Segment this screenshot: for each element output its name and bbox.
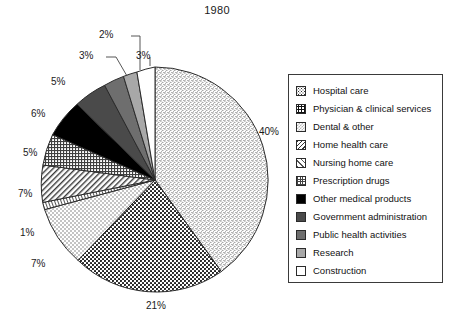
label-5-percent-rx: 5% — [23, 147, 37, 158]
legend-label: Hospital care — [313, 86, 368, 96]
pie-slices — [41, 67, 268, 292]
stipple-swatch-icon — [296, 86, 306, 96]
dense-dot-swatch-icon — [296, 104, 306, 114]
light-diagonal-swatch-icon — [296, 158, 306, 168]
legend-label: Government administration — [313, 212, 427, 222]
legend-item-government-administration[interactable]: Government administration — [289, 208, 442, 226]
label-2-percent: 2% — [99, 29, 113, 40]
legend-item-physician-clinical-services[interactable]: Physician & clinical services — [289, 100, 442, 118]
legend-label: Construction — [313, 266, 366, 276]
legend-label: Physician & clinical services — [313, 104, 431, 114]
white-swatch-icon — [296, 266, 306, 276]
legend-item-dental-other[interactable]: Dental & other — [289, 118, 442, 136]
label-5-percent-gov: 5% — [51, 76, 65, 87]
legend-item-construction[interactable]: Construction — [289, 262, 442, 280]
medium-gray-swatch-icon — [296, 230, 306, 240]
legend-label: Dental & other — [313, 122, 374, 132]
legend-item-prescription-drugs[interactable]: Prescription drugs — [289, 172, 442, 190]
legend-label: Nursing home care — [313, 158, 393, 168]
pie-chart-figure: 1980 — [0, 0, 466, 317]
legend-label: Public health activities — [313, 230, 406, 240]
label-3-percent-public: 3% — [79, 50, 93, 61]
legend-label: Other medical products — [313, 194, 411, 204]
legend-label: Home health care — [313, 140, 388, 150]
legend-item-other-medical-products[interactable]: Other medical products — [289, 190, 442, 208]
leader-line-3pct-public — [106, 57, 127, 76]
label-40-percent: 40% — [259, 126, 279, 137]
label-3-percent-construction: 3% — [136, 50, 150, 61]
legend-label: Research — [313, 248, 354, 258]
label-21-percent: 21% — [146, 300, 166, 311]
dark-gray-swatch-icon — [296, 212, 306, 222]
legend-label: Prescription drugs — [313, 176, 390, 186]
legend-item-hospital-care[interactable]: Hospital care — [289, 82, 442, 100]
legend-item-nursing-home-care[interactable]: Nursing home care — [289, 154, 442, 172]
grid-hatch-swatch-icon — [296, 176, 306, 186]
black-swatch-icon — [296, 194, 306, 204]
label-7-percent-home: 7% — [18, 188, 32, 199]
legend-item-research[interactable]: Research — [289, 244, 442, 262]
light-gray-swatch-icon — [296, 248, 306, 258]
light-checker-swatch-icon — [296, 122, 306, 132]
legend-item-public-health-activities[interactable]: Public health activities — [289, 226, 442, 244]
diagonal-hatch-swatch-icon — [296, 140, 306, 150]
label-7-percent-dental: 7% — [31, 258, 45, 269]
legend-item-home-health-care[interactable]: Home health care — [289, 136, 442, 154]
label-1-percent: 1% — [20, 227, 34, 238]
label-6-percent: 6% — [31, 108, 45, 119]
legend: Hospital care Physician & clinical servi… — [288, 74, 443, 283]
